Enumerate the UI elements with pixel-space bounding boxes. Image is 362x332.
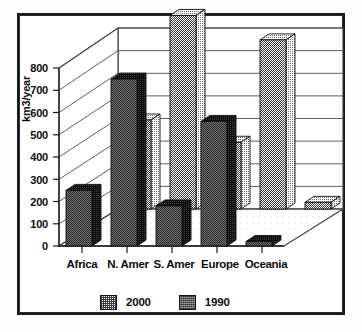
bar-s-amer-1990-face [156, 206, 182, 246]
chart-legend: 2000 1990 [100, 291, 280, 313]
legend-item-1990: 1990 [179, 295, 230, 310]
bar-n-amer-2000 [170, 9, 205, 209]
y-tick-label-800: 800 [20, 62, 48, 74]
y-axis-label: km3/year [20, 76, 32, 122]
bar-africa-1990 [66, 184, 101, 246]
y-tick-label-400: 400 [20, 151, 48, 163]
bar-oceania-2000-face [305, 202, 331, 209]
bar-n-amer-1990-face [111, 79, 137, 246]
bar-europe-2000 [260, 34, 295, 209]
bar-africa-1990-side [92, 184, 101, 246]
bar-europe-1990-side [227, 115, 236, 246]
bar-africa-1990-face [66, 190, 92, 246]
bar-africa-2000-side [151, 114, 160, 209]
chart-y-ticks [53, 68, 59, 246]
bar-europe-2000-side [286, 34, 295, 209]
bar-n-amer-2000-face [170, 15, 196, 209]
x-category-label-oceania: Oceania [236, 258, 296, 270]
legend-swatch-1990-icon [179, 295, 196, 310]
y-tick-label-300: 300 [20, 174, 48, 186]
y-tick-label-100: 100 [20, 218, 48, 230]
bar-oceania-1990-face [246, 242, 272, 246]
bar-s-amer-1990-side [182, 200, 191, 246]
y-tick-label-0: 0 [20, 240, 48, 252]
bar-n-amer-1990-side [137, 73, 146, 246]
bar-s-amer-1990 [156, 200, 191, 246]
chart-plot-area [0, 0, 362, 332]
legend-label-2000: 2000 [126, 296, 151, 308]
bar-s-amer-2000-side [241, 136, 250, 209]
bar-europe-1990-face [201, 121, 227, 246]
y-tick-label-200: 200 [20, 196, 48, 208]
chart-x-ticks [82, 246, 262, 253]
legend-swatch-2000-icon [100, 295, 117, 310]
legend-item-2000: 2000 [100, 295, 151, 310]
bar-n-amer-1990 [111, 73, 146, 246]
bar-europe-1990 [201, 115, 236, 246]
chart-figure: 800 700 600 500 400 300 200 100 0 km3/ye… [0, 0, 362, 332]
bar-europe-2000-face [260, 40, 286, 209]
y-tick-label-500: 500 [20, 129, 48, 141]
legend-label-1990: 1990 [205, 296, 230, 308]
